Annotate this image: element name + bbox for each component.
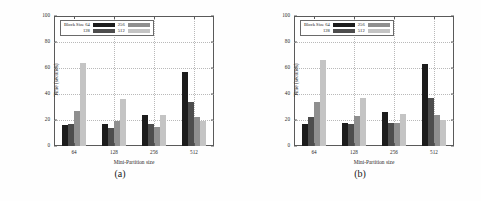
legend-swatch	[368, 29, 390, 33]
x-axis-tick-label: 128	[350, 150, 358, 155]
y-axis-tick-mark	[211, 94, 214, 95]
x-axis-tick-mark	[154, 16, 155, 19]
x-axis-tick-mark	[314, 16, 315, 19]
x-axis-tick-mark	[434, 16, 435, 19]
panel-caption-b: (b)	[240, 168, 480, 179]
x-axis-tick-mark	[74, 16, 75, 19]
panel-caption-a: (a)	[0, 168, 240, 179]
y-axis-tick-mark	[451, 42, 454, 43]
legend-label: 128	[304, 29, 330, 34]
x-axis-tick-label: 64	[71, 150, 76, 155]
legend-swatch	[333, 23, 355, 27]
legend-label: 256	[358, 23, 365, 28]
y-axis-tick-label: 20	[45, 117, 50, 122]
bar	[200, 121, 206, 146]
legend-label: Block Size 64	[304, 23, 330, 28]
legend-swatch	[368, 23, 390, 27]
y-axis-tick-mark	[451, 16, 454, 17]
y-axis-tick-mark	[294, 146, 297, 147]
bar-group-512	[174, 16, 214, 146]
y-axis-tick-mark	[451, 68, 454, 69]
y-axis-tick-mark	[451, 146, 454, 147]
legend-label: 256	[118, 23, 125, 28]
plot-area-b: 02040608010064128256512 Time (seconds) M…	[294, 16, 454, 146]
x-axis-tick-mark	[394, 16, 395, 19]
x-axis-tick-mark	[354, 16, 355, 19]
legend-label: 128	[64, 29, 90, 34]
x-axis-tick-mark	[74, 143, 75, 146]
legend-swatch	[333, 29, 355, 33]
y-axis-tick-mark	[54, 16, 57, 17]
legend-swatch	[128, 23, 150, 27]
y-axis-tick-mark	[211, 68, 214, 69]
y-axis-tick-label: 60	[285, 65, 290, 70]
y-axis-tick-mark	[294, 16, 297, 17]
bar	[360, 98, 366, 146]
legend-swatch	[93, 29, 115, 33]
x-axis-tick-mark	[314, 143, 315, 146]
plot-area-a: 02040608010064128256512 Time (seconds) M…	[54, 16, 214, 146]
y-axis-tick-label: 40	[45, 91, 50, 96]
x-axis-tick-label: 64	[311, 150, 316, 155]
y-axis-tick-label: 60	[45, 65, 50, 70]
x-axis-tick-mark	[114, 143, 115, 146]
y-axis-label-b: Time (seconds)	[293, 40, 299, 120]
x-axis-tick-mark	[194, 143, 195, 146]
y-axis-label-a: Time (seconds)	[53, 40, 59, 120]
y-axis-tick-mark	[211, 16, 214, 17]
x-axis-tick-label: 512	[190, 150, 198, 155]
legend-label: 512	[118, 29, 125, 34]
chart-panel-a: 02040608010064128256512 Time (seconds) M…	[0, 0, 240, 201]
x-axis-tick-mark	[114, 16, 115, 19]
y-axis-tick-label: 100	[282, 13, 290, 18]
legend-swatch	[128, 29, 150, 33]
chart-panel-b: 02040608010064128256512 Time (seconds) M…	[240, 0, 480, 201]
x-axis-tick-mark	[154, 143, 155, 146]
figure-two-bar-charts: 02040608010064128256512 Time (seconds) M…	[0, 0, 481, 201]
bar	[320, 60, 326, 146]
x-axis-tick-mark	[194, 16, 195, 19]
y-axis-tick-mark	[211, 42, 214, 43]
x-axis-label-b: Mini-Partition size	[294, 159, 454, 165]
y-axis-tick-label: 100	[42, 13, 50, 18]
x-axis-tick-mark	[354, 143, 355, 146]
y-axis-tick-label: 20	[285, 117, 290, 122]
y-axis-tick-mark	[211, 146, 214, 147]
x-axis-tick-label: 512	[430, 150, 438, 155]
bar	[440, 120, 446, 146]
y-axis-tick-label: 80	[285, 39, 290, 44]
bar-group-512	[414, 16, 454, 146]
legend-label: Block Size 64	[64, 23, 90, 28]
bar	[400, 114, 406, 147]
x-axis-tick-mark	[434, 143, 435, 146]
y-axis-tick-label: 0	[47, 143, 50, 148]
y-axis-tick-mark	[451, 94, 454, 95]
legend-b: Block Size 64256128512	[300, 20, 394, 36]
x-axis-tick-label: 256	[150, 150, 158, 155]
x-axis-tick-mark	[394, 143, 395, 146]
bar	[160, 115, 166, 146]
y-axis-tick-mark	[54, 146, 57, 147]
y-axis-tick-label: 0	[287, 143, 290, 148]
bar	[120, 99, 126, 146]
y-axis-tick-mark	[211, 120, 214, 121]
legend-label: 512	[358, 29, 365, 34]
x-axis-tick-label: 256	[390, 150, 398, 155]
y-axis-tick-label: 80	[45, 39, 50, 44]
legend-a: Block Size 64256128512	[60, 20, 154, 36]
y-axis-tick-label: 40	[285, 91, 290, 96]
legend-swatch	[93, 23, 115, 27]
bar	[80, 63, 86, 146]
x-axis-label-a: Mini-Partition size	[54, 159, 214, 165]
x-axis-tick-label: 128	[110, 150, 118, 155]
y-axis-tick-mark	[451, 120, 454, 121]
